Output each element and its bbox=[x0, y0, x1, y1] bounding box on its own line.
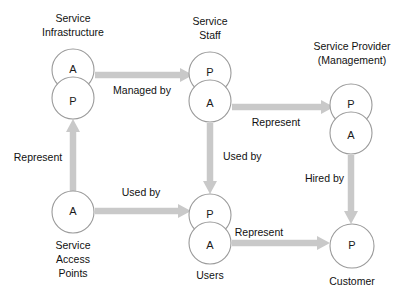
node-service-provider[interactable]: Service Provider (Management) P A bbox=[313, 40, 391, 154]
node-service-staff-letter-p: P bbox=[206, 66, 213, 78]
node-service-infrastructure-letter-p: P bbox=[69, 95, 76, 107]
node-users-label: Users bbox=[196, 269, 223, 281]
node-service-infrastructure[interactable]: Service Infrastructure A P bbox=[42, 12, 104, 119]
edge-used-by-access-users: Used by bbox=[95, 186, 191, 218]
edge-represent-users-customer-arrowhead bbox=[317, 236, 330, 250]
node-service-infrastructure-label-line2: Infrastructure bbox=[42, 26, 104, 38]
edge-represent-users-customer: Represent bbox=[232, 226, 330, 250]
node-service-staff-label-line2: Staff bbox=[199, 29, 220, 41]
node-service-staff[interactable]: Service Staff P A bbox=[189, 15, 231, 122]
edge-used-by-staff-users: Used by bbox=[203, 123, 262, 194]
node-service-infrastructure-label-line1: Service bbox=[55, 12, 90, 24]
node-users-letter-a: A bbox=[206, 239, 214, 251]
node-customer-label: Customer bbox=[329, 275, 375, 287]
node-service-provider-letter-p: P bbox=[347, 98, 354, 110]
edge-hired-by-provider-customer-arrowhead bbox=[344, 211, 358, 224]
node-service-access-points[interactable]: A Service Access Points bbox=[52, 191, 94, 279]
diagram-svg: Managed by Represent Represent Used by U… bbox=[0, 0, 404, 294]
edge-represent-staff-provider-label: Represent bbox=[252, 116, 301, 128]
edge-represent-access-infrastructure-arrowhead bbox=[66, 119, 80, 132]
node-customer-letter-p: P bbox=[348, 239, 355, 251]
edge-hired-by-provider-customer: Hired by bbox=[305, 155, 358, 224]
edge-managed-by: Managed by bbox=[95, 68, 193, 96]
node-service-access-points-label-line2: Access bbox=[56, 253, 90, 265]
node-service-access-points-label-line3: Points bbox=[58, 267, 87, 279]
edge-used-by-staff-users-arrowhead bbox=[203, 181, 217, 194]
edge-used-by-access-users-label: Used by bbox=[122, 186, 161, 198]
node-service-infrastructure-letter-a: A bbox=[69, 63, 77, 75]
diagram-canvas: Managed by Represent Represent Used by U… bbox=[0, 0, 404, 294]
node-users[interactable]: P A Users bbox=[189, 194, 231, 281]
edge-hired-by-provider-customer-label: Hired by bbox=[305, 172, 345, 184]
node-service-provider-label-line1: Service Provider bbox=[313, 40, 391, 52]
edge-represent-access-infrastructure-label: Represent bbox=[14, 151, 63, 163]
edge-managed-by-label: Managed by bbox=[113, 84, 172, 96]
edge-represent-staff-provider: Represent bbox=[232, 100, 334, 128]
node-service-access-points-label-line1: Service bbox=[55, 239, 90, 251]
node-service-provider-label-line2: (Management) bbox=[318, 54, 386, 66]
node-service-access-points-letter-a: A bbox=[69, 205, 77, 217]
node-service-staff-letter-a: A bbox=[206, 97, 214, 109]
node-customer[interactable]: P Customer bbox=[329, 224, 375, 287]
edge-represent-access-infrastructure: Represent bbox=[14, 119, 80, 191]
node-service-staff-label-line1: Service bbox=[192, 15, 227, 27]
edge-represent-users-customer-label: Represent bbox=[235, 226, 284, 238]
node-users-letter-p: P bbox=[206, 208, 213, 220]
node-service-provider-letter-a: A bbox=[347, 129, 355, 141]
edge-used-by-staff-users-label: Used by bbox=[223, 150, 262, 162]
